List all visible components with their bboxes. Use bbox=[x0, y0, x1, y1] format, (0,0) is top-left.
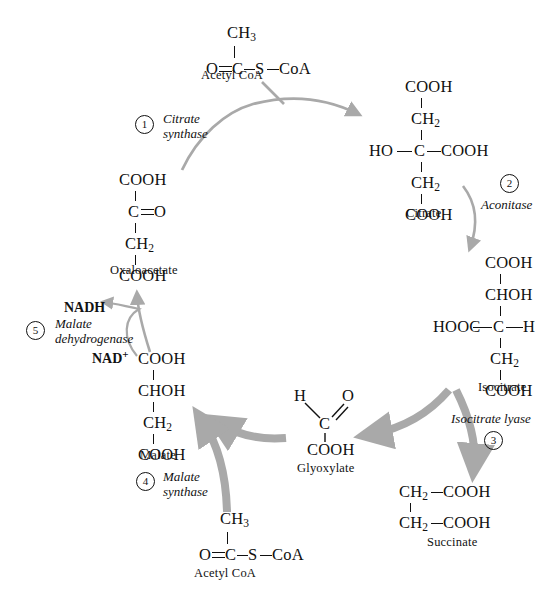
atom-label: CH bbox=[411, 173, 434, 192]
enzyme-label-aconitase: Aconitase bbox=[481, 198, 532, 213]
atom-label: O bbox=[199, 544, 211, 566]
atom-label: CH bbox=[399, 513, 422, 532]
enzyme-line-1: Isocitrate lyase bbox=[451, 412, 531, 427]
atom-label: S bbox=[248, 544, 257, 566]
atom-label: COOH bbox=[443, 512, 491, 534]
bond-double-upper bbox=[212, 552, 225, 553]
atom-label: CH bbox=[411, 109, 434, 128]
enzyme-label-isocitrate-lyase: Isocitrate lyase bbox=[451, 412, 531, 427]
atom-label: C bbox=[493, 316, 504, 338]
bond-vertical bbox=[135, 223, 136, 233]
atom-subscript: 3 bbox=[243, 517, 249, 529]
atom-label: CHOH bbox=[485, 284, 533, 306]
atom-subscript: 2 bbox=[148, 242, 154, 254]
atom-label: COOH bbox=[307, 440, 355, 460]
bond-horizontal bbox=[260, 555, 272, 556]
caption-citrate: Citrate bbox=[406, 206, 441, 221]
atom-label: COOH bbox=[119, 169, 167, 191]
atom-label: H bbox=[523, 316, 535, 338]
caption-acetyl-coa-bottom: Acetyl CoA bbox=[194, 566, 256, 581]
caption-succinate: Succinate bbox=[427, 535, 477, 550]
arrow-citrate-to-isocitrate bbox=[463, 186, 475, 248]
atom-label: COOH bbox=[138, 348, 186, 370]
arrow-oxaloacetate-to-citrate bbox=[182, 99, 358, 170]
bond-vertical bbox=[500, 370, 501, 380]
atom-subscript: 3 bbox=[250, 31, 256, 43]
enzyme-line-1: Citrate bbox=[163, 112, 208, 127]
atom-label: C bbox=[414, 140, 425, 162]
bond-vertical bbox=[500, 274, 501, 284]
bond-vertical bbox=[227, 532, 228, 544]
bond-horizontal bbox=[431, 492, 443, 493]
bond-vertical bbox=[421, 130, 422, 140]
bond-double-lower bbox=[212, 557, 225, 558]
atom-label: C bbox=[319, 414, 330, 434]
atom-label: CHOH bbox=[138, 380, 186, 402]
glyoxylate-cycle-diagram: CH3 O C S CoA Acetyl CoA COOH CH2 bbox=[0, 0, 557, 600]
bond-vertical bbox=[421, 162, 422, 172]
atom-label: CH bbox=[490, 349, 513, 368]
atom-label: C bbox=[128, 201, 139, 223]
nad-plus-charge: + bbox=[122, 348, 128, 360]
atom-label: CH bbox=[220, 509, 243, 528]
atom-subscript: 2 bbox=[434, 181, 440, 193]
atom-subscript: 2 bbox=[422, 521, 428, 533]
bond-vertical bbox=[500, 338, 501, 348]
caption-malate: Malate bbox=[140, 448, 176, 463]
enzyme-label-malate-synthase: Malate synthase bbox=[163, 470, 208, 499]
bond-vertical bbox=[234, 46, 235, 58]
enzyme-line-1: Malate bbox=[163, 470, 208, 485]
bond-vertical bbox=[153, 402, 154, 412]
bond-vertical bbox=[410, 503, 411, 512]
atom-label: CoA bbox=[279, 58, 311, 80]
bond-horizontal bbox=[267, 69, 279, 70]
bond-horizontal bbox=[237, 555, 248, 556]
arrow-glyoxylate-to-malate bbox=[220, 424, 286, 438]
atom-label: CH bbox=[125, 234, 148, 253]
bond-horizontal bbox=[397, 151, 412, 152]
bond-double-upper bbox=[141, 209, 154, 210]
bond-horizontal bbox=[427, 151, 441, 152]
atom-label: COOH bbox=[443, 481, 491, 503]
caption-isocitrate: Isocitrate bbox=[478, 380, 527, 395]
atom-label: CH bbox=[227, 23, 250, 42]
bond-horizontal bbox=[506, 327, 523, 328]
bond-vertical bbox=[500, 306, 501, 316]
atom-label: O bbox=[154, 201, 166, 223]
bond-double-lower bbox=[141, 214, 154, 215]
enzyme-line-1: Malate bbox=[55, 317, 133, 332]
nad-plus-label: NAD bbox=[92, 351, 122, 366]
caption-oxaloacetate: Oxaloacetate bbox=[110, 263, 178, 278]
step-number-1: 1 bbox=[135, 115, 154, 134]
enzyme-label-citrate-synthase: Citrate synthase bbox=[163, 112, 208, 141]
arrow-acetylcoa-stub bbox=[262, 82, 284, 104]
bond-vertical bbox=[421, 98, 422, 108]
bond-horizontal bbox=[473, 327, 492, 328]
enzyme-line-1: Aconitase bbox=[481, 198, 532, 213]
cofactor-nad-plus: NAD+ bbox=[92, 348, 129, 367]
arrow-isocitrate-to-succinate bbox=[456, 390, 474, 464]
step-number-2: 2 bbox=[500, 174, 519, 193]
atom-label: CoA bbox=[272, 544, 304, 566]
enzyme-line-2: dehydrogenase bbox=[55, 332, 133, 347]
arrow-malate-to-oxaloacetate bbox=[137, 294, 150, 352]
atom-label: COOH bbox=[485, 252, 533, 274]
atom-subscript: 2 bbox=[422, 490, 428, 502]
bond-vertical bbox=[421, 194, 422, 204]
atom-label: CH bbox=[143, 413, 166, 432]
atom-label: C bbox=[225, 544, 236, 566]
enzyme-line-2: synthase bbox=[163, 485, 208, 500]
caption-glyoxylate: Glyoxylate bbox=[297, 461, 355, 476]
enzyme-label-malate-dehydrogenase: Malate dehydrogenase bbox=[55, 317, 133, 346]
step-number-5: 5 bbox=[26, 321, 45, 340]
atom-label: HO bbox=[369, 140, 393, 162]
atom-subscript: 2 bbox=[434, 117, 440, 129]
bond-vertical bbox=[153, 370, 154, 380]
step-number-3: 3 bbox=[484, 431, 503, 450]
atom-label: COOH bbox=[405, 76, 453, 98]
atom-label: COOH bbox=[441, 140, 489, 162]
bond-vertical bbox=[153, 434, 154, 444]
enzyme-line-2: synthase bbox=[163, 127, 208, 142]
bond-vertical bbox=[135, 191, 136, 201]
caption-acetyl-coa-top: Acetyl CoA bbox=[201, 68, 263, 83]
